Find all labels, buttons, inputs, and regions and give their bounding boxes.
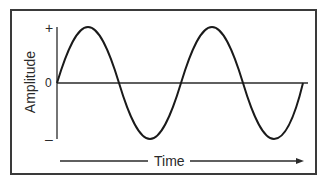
- x-axis-label: Time: [151, 153, 188, 169]
- arrow-head-icon: [296, 158, 304, 164]
- y-axis-label: Amplitude: [22, 51, 38, 113]
- y-tick-minus: –: [45, 132, 53, 146]
- y-tick-zero: 0: [45, 77, 52, 89]
- y-tick-plus: +: [45, 21, 53, 35]
